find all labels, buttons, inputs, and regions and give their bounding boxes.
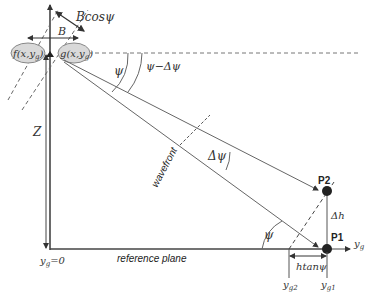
psi-minus-dpsi-arc xyxy=(128,53,142,92)
z-label: Z xyxy=(32,125,42,139)
wavefront-label: wavefront xyxy=(149,144,180,189)
bcos-label: Bcosψ xyxy=(75,10,115,24)
p2-label: P2 xyxy=(318,175,331,186)
p2-point xyxy=(322,186,332,196)
yg-zero-label: yg=0 xyxy=(39,255,66,268)
ray-to-p1 xyxy=(64,62,318,247)
psi-top-label: ψ xyxy=(114,64,124,78)
dpsi-label: Δψ xyxy=(207,149,227,163)
yg-axis-label: yg xyxy=(353,238,365,251)
yg1-label: yg1 xyxy=(320,279,336,292)
dh-label: Δh xyxy=(330,210,345,221)
psi-bottom-label: ψ xyxy=(264,228,274,242)
interferometry-geometry-diagram: Bcosψ B f(x,yg) g(x,yg) ψ ψ−Δψ wavefront… xyxy=(0,0,372,293)
reference-plane-label: reference plane xyxy=(117,253,187,264)
b-label: B xyxy=(57,25,66,38)
origin-marker xyxy=(46,51,54,57)
p1-label: P1 xyxy=(331,232,344,243)
htan-label: htanψ xyxy=(296,261,327,272)
wavefront-line xyxy=(180,115,210,145)
yg2-label: yg2 xyxy=(282,279,298,292)
psi-minus-dpsi-label: ψ−Δψ xyxy=(146,60,181,73)
axis-top-arrowhead xyxy=(47,4,53,10)
ray-to-p2 xyxy=(64,60,318,190)
dpsi-arc xyxy=(226,152,230,170)
